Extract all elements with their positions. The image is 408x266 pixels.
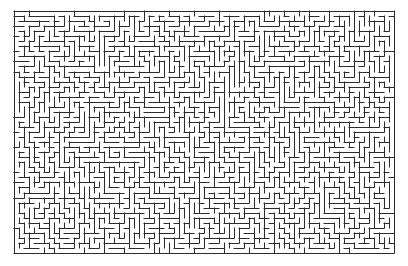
maze-figure: Rectangular Perfect Maze A dense rectang… [0, 0, 408, 266]
maze-canvas [0, 0, 408, 266]
